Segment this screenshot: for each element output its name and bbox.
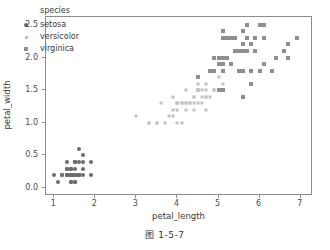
data-point-virginica (221, 62, 225, 66)
legend-label-setosa: setosa (40, 19, 66, 31)
y-tick-label: 0.0 (25, 183, 38, 192)
data-point-setosa (81, 167, 85, 171)
y-tick-label: 2.5 (25, 19, 38, 28)
data-point-virginica (212, 56, 216, 60)
y-axis-label: petal_width (2, 80, 12, 129)
data-point-setosa (73, 160, 77, 164)
data-point-virginica (274, 56, 278, 60)
y-tick-label: 1.0 (25, 117, 38, 126)
legend-label-virginica: virginica (40, 43, 74, 55)
data-point-versicolor (221, 82, 224, 85)
data-point-virginica (258, 69, 262, 73)
data-point-versicolor (205, 82, 208, 85)
data-point-versicolor (172, 108, 175, 111)
data-point-virginica (241, 95, 245, 99)
data-point-setosa (81, 153, 85, 157)
x-tick-label: 3 (133, 199, 138, 208)
small-square-marker-icon (12, 36, 40, 39)
x-tick (176, 195, 177, 198)
data-point-virginica (233, 36, 237, 40)
y-tick (42, 89, 45, 90)
data-point-versicolor (188, 102, 191, 105)
data-point-versicolor (205, 95, 208, 98)
data-point-virginica (229, 62, 233, 66)
data-point-setosa (69, 167, 73, 171)
data-point-virginica (196, 75, 200, 79)
data-point-versicolor (217, 76, 220, 79)
x-tick-label: 4 (174, 199, 179, 208)
data-point-setosa (81, 160, 85, 164)
data-point-versicolor (176, 102, 179, 105)
data-point-versicolor (172, 115, 175, 118)
x-tick-label: 5 (215, 199, 220, 208)
x-tick-label: 6 (256, 199, 261, 208)
y-tick (42, 57, 45, 58)
data-point-virginica (253, 49, 257, 53)
data-point-versicolor (196, 89, 199, 92)
data-point-virginica (270, 69, 274, 73)
data-point-setosa (77, 160, 81, 164)
data-point-versicolor (155, 121, 158, 124)
x-tick-label: 1 (51, 199, 56, 208)
data-point-virginica (225, 56, 229, 60)
y-tick-label: 0.5 (25, 150, 38, 159)
data-point-virginica (286, 42, 290, 46)
data-point-virginica (221, 88, 225, 92)
data-point-setosa (77, 173, 81, 177)
data-point-virginica (245, 23, 249, 27)
data-point-virginica (241, 42, 245, 46)
data-point-versicolor (209, 95, 212, 98)
data-point-versicolor (184, 102, 187, 105)
data-point-versicolor (205, 89, 208, 92)
data-point-virginica (262, 36, 266, 40)
data-point-setosa (69, 173, 73, 177)
data-point-setosa (81, 173, 85, 177)
x-tick (218, 195, 219, 198)
x-tick (53, 195, 54, 198)
data-point-versicolor (192, 108, 195, 111)
data-point-versicolor (192, 95, 195, 98)
data-point-setosa (52, 173, 56, 177)
data-point-versicolor (201, 102, 204, 105)
x-tick (259, 195, 260, 198)
data-point-versicolor (160, 102, 163, 105)
data-point-setosa (73, 173, 77, 177)
data-point-versicolor (192, 102, 195, 105)
y-tick (42, 154, 45, 155)
data-point-virginica (241, 69, 245, 73)
data-point-versicolor (180, 121, 183, 124)
data-point-versicolor (176, 121, 179, 124)
legend-title: species (40, 6, 120, 16)
data-point-virginica (237, 69, 241, 73)
x-tick (135, 195, 136, 198)
legend: species setosa versicolor virginica (12, 6, 120, 55)
data-point-virginica (241, 29, 245, 33)
data-point-virginica (233, 49, 237, 53)
data-point-versicolor (205, 108, 208, 111)
data-point-virginica (212, 69, 216, 73)
data-point-virginica (245, 36, 249, 40)
data-point-setosa (69, 180, 73, 184)
data-point-virginica (221, 29, 225, 33)
data-point-setosa (89, 173, 93, 177)
y-tick (42, 122, 45, 123)
data-point-virginica (221, 69, 225, 73)
data-point-versicolor (147, 121, 150, 124)
y-tick-label: 1.5 (25, 85, 38, 94)
x-tick (300, 195, 301, 198)
data-point-virginica (245, 49, 249, 53)
legend-item-versicolor[interactable]: versicolor (12, 31, 120, 43)
data-point-versicolor (201, 89, 204, 92)
data-point-versicolor (184, 108, 187, 111)
data-point-setosa (65, 160, 69, 164)
data-point-versicolor (135, 115, 138, 118)
data-point-versicolor (168, 115, 171, 118)
data-point-virginica (262, 62, 266, 66)
data-point-versicolor (172, 95, 175, 98)
data-point-versicolor (213, 89, 216, 92)
data-point-virginica (295, 36, 299, 40)
y-tick (42, 187, 45, 188)
data-point-setosa (89, 160, 93, 164)
data-point-setosa (56, 180, 60, 184)
data-point-virginica (249, 82, 253, 86)
